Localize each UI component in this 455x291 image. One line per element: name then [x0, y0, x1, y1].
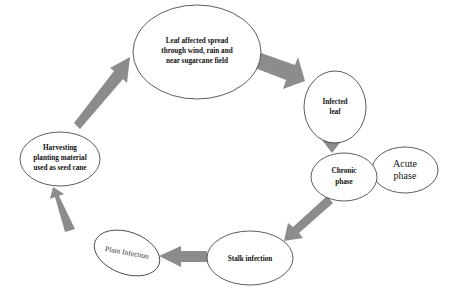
node-infected-leaf-line-1: Infected: [322, 98, 347, 106]
node-stalk-infection: Stalk infection: [207, 231, 293, 285]
arrow-stalk-infection-to-plant-infection: [159, 246, 207, 267]
node-acute-phase-line-1: Acute: [393, 158, 417, 169]
node-harvesting-line-3: used as seed cane: [34, 164, 87, 172]
node-harvesting: Harvesting planting material used as see…: [20, 132, 100, 186]
node-plant-infection: Plant Infection: [88, 222, 166, 285]
node-chronic-phase-line-2: phase: [335, 178, 353, 186]
node-leaf-spread-line-2: through wind, rain and: [161, 47, 232, 55]
node-harvesting-line-2: planting material: [33, 154, 86, 162]
node-chronic-phase-line-1: Chronic: [331, 167, 357, 175]
node-acute-phase-line-2: phase: [394, 170, 417, 181]
arrow-plant-infection-to-harvesting: [50, 187, 75, 232]
node-leaf-spread-line-3: near sugarcane field: [166, 57, 228, 65]
node-leaf-spread: Leaf affected spread through wind, rain …: [133, 5, 261, 99]
node-stalk-infection-label: Stalk infection: [228, 255, 273, 263]
cycle-diagram: Leaf affected spread through wind, rain …: [0, 0, 455, 291]
node-harvesting-line-1: Harvesting: [43, 144, 77, 152]
node-infected-leaf: Infected leaf: [304, 71, 366, 143]
arrow-harvesting-to-leaf-spread: [74, 57, 130, 129]
node-infected-leaf-line-2: leaf: [329, 108, 341, 116]
node-chronic-phase: Chronic phase: [311, 153, 377, 201]
arrow-chronic-phase-to-stalk-infection: [284, 196, 333, 241]
node-leaf-spread-line-1: Leaf affected spread: [166, 37, 229, 45]
node-acute-phase: Acute phase: [372, 147, 438, 193]
